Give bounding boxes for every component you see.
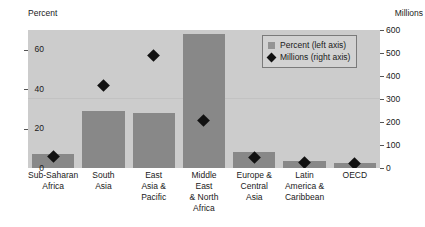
x-axis-label-line: OECD: [324, 170, 386, 181]
x-axis-label-line: Africa: [173, 203, 235, 214]
x-axis-category-labels: Sub-SaharanAfricaSouthAsiaEastAsia &Paci…: [28, 170, 380, 227]
data-point-diamond: [147, 49, 160, 62]
right-tick-mark: [380, 122, 384, 123]
marker-slot: [78, 30, 128, 168]
right-tick-mark: [380, 99, 384, 100]
x-axis-label: OECD: [324, 170, 386, 181]
right-tick-mark: [380, 145, 384, 146]
right-tick-label: 100: [386, 141, 425, 150]
legend-item: Millions (right axis): [268, 51, 350, 63]
right-tick-mark: [380, 76, 384, 77]
legend-square-icon: [268, 42, 275, 49]
marker-slot: [129, 30, 179, 168]
right-tick-label: 200: [386, 118, 425, 127]
right-axis-caption: Millions: [395, 8, 423, 18]
right-tick-mark: [380, 168, 384, 169]
left-tick-mark: [24, 50, 28, 51]
right-tick-label: 0: [386, 164, 425, 173]
x-axis-label-line: Caribbean: [273, 192, 335, 203]
marker-slot: [179, 30, 229, 168]
legend-diamond-icon: [267, 52, 277, 62]
x-axis-label-line: America &: [273, 181, 335, 192]
left-tick-mark: [24, 89, 28, 90]
right-tick-label: 400: [386, 72, 425, 81]
data-point-diamond: [298, 156, 311, 168]
right-tick-label: 500: [386, 49, 425, 58]
chart-legend: Percent (left axis)Millions (right axis): [262, 35, 357, 68]
data-point-diamond: [97, 79, 110, 92]
left-axis-caption: Percent: [28, 8, 57, 18]
legend-label: Percent (left axis): [280, 40, 346, 50]
right-tick-label: 600: [386, 26, 425, 35]
data-point-diamond: [348, 157, 361, 168]
legend-item: Percent (left axis): [268, 39, 350, 51]
chart-container: Percent Millions 0204060 010020030040050…: [0, 0, 425, 227]
right-tick-label: 300: [386, 95, 425, 104]
data-point-diamond: [198, 114, 211, 127]
data-point-diamond: [248, 151, 261, 164]
right-tick-mark: [380, 30, 384, 31]
left-tick-mark: [24, 129, 28, 130]
right-tick-mark: [380, 53, 384, 54]
legend-label: Millions (right axis): [280, 52, 350, 62]
data-point-diamond: [47, 150, 60, 163]
